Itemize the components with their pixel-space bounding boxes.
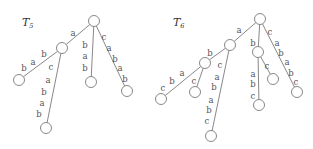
edge-label: c (268, 27, 273, 37)
edge-label: c (218, 60, 223, 70)
edge-label: c (161, 83, 166, 93)
suffix-trees-diagram: ababcababbabcababababcccababcbabcccababc… (0, 0, 313, 149)
edge-label: a (208, 95, 213, 105)
tree-t5-node-a (57, 43, 68, 54)
tree-t5-node-l2 (41, 123, 52, 134)
edge-label: a (117, 63, 122, 73)
edge-label: b (82, 63, 88, 73)
edge-label: c (49, 62, 54, 72)
tree-t6-edge (258, 24, 259, 46)
tree-t6-node-B (225, 40, 236, 51)
edge-label: a (39, 98, 44, 108)
edge-label: b (250, 79, 256, 89)
edge-label: a (179, 68, 184, 78)
tree-t5-edge (96, 26, 124, 86)
tree-t5-edge (91, 26, 93, 76)
tree-t5-node-r (89, 16, 100, 27)
edge-label: a (214, 72, 219, 82)
edge-label: b (36, 109, 42, 119)
tree-t6-node-C (200, 58, 211, 69)
tree-titles-layer: T5T6 (22, 16, 184, 30)
edge-label: c (251, 91, 256, 101)
edge-label: b (82, 40, 88, 50)
edge-label: c (102, 32, 107, 42)
tree-t5-node-l3 (86, 77, 97, 88)
title-subscript: 6 (180, 22, 184, 30)
edge-label: b (250, 38, 256, 48)
edge-label: b (21, 63, 27, 73)
edge-label: c (192, 76, 197, 86)
tree-t6-node-l5 (268, 74, 279, 85)
edge-label: b (169, 76, 175, 86)
tree-t5-title: T5 (22, 16, 33, 30)
title-subscript: 5 (29, 22, 33, 30)
tree-t6-edge (197, 68, 203, 87)
edge-label: c (265, 61, 270, 71)
edge-label: b (41, 87, 47, 97)
edge-label: a (106, 43, 111, 53)
edge-label: b (278, 48, 284, 58)
edge-label: a (70, 28, 75, 38)
edge-label: b (207, 48, 213, 58)
edge-label: a (274, 38, 279, 48)
edge-label: a (45, 75, 50, 85)
tree-t6-node-l2 (190, 87, 201, 98)
edge-label: b (206, 105, 212, 115)
tree-t6-node-l4 (254, 100, 265, 111)
tree-t5-node-l1 (14, 75, 25, 86)
tree-t6-node-l6 (292, 87, 303, 98)
tree-t6-node-r (255, 14, 266, 25)
tree-t6-node-l3 (206, 131, 217, 142)
edge-label: a (30, 57, 35, 67)
edge-label: a (250, 69, 255, 79)
tree-t6-title: T6 (173, 16, 184, 30)
edge-label: c (205, 116, 210, 126)
tree-t5-node-l4 (122, 86, 133, 97)
edge-label: a (284, 57, 289, 67)
tree-t6-edge (258, 57, 259, 99)
edge-label: c (294, 77, 299, 87)
tree-t6-node-l1 (156, 94, 167, 105)
tree-t6-node-D (253, 47, 264, 58)
edge-label: b (122, 74, 128, 84)
edge-label: b (211, 82, 217, 92)
edge-label: a (82, 51, 87, 61)
edge-label: a (236, 25, 241, 35)
edge-label: b (41, 49, 47, 59)
